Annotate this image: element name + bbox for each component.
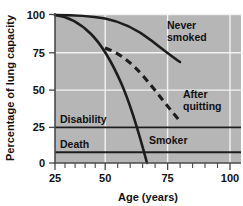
lung-capacity-chart: 100 75 50 25 0 25 50 75 100 Percentage o…: [0, 0, 243, 206]
annotation-after-quitting-line2: quitting: [183, 100, 221, 112]
x-tick-label-50: 50: [99, 172, 111, 184]
x-axis-title: Age (years): [118, 191, 178, 203]
annotation-never-smoked-line1: Never: [167, 19, 196, 31]
x-tick-label-25: 25: [49, 172, 61, 184]
y-tick-label-0: 0: [39, 157, 45, 169]
y-tick-label-100: 100: [27, 9, 45, 21]
annotation-never-smoked-line2: smoked: [167, 31, 207, 43]
x-tick-label-75: 75: [161, 172, 173, 184]
y-tick-label-50: 50: [33, 84, 45, 96]
y-axis-ticks: [49, 15, 55, 164]
y-axis-title: Percentage of lung capacity: [4, 14, 16, 161]
annotation-death: Death: [60, 138, 89, 150]
y-tick-label-25: 25: [33, 121, 45, 133]
annotation-after-quitting-line1: After: [183, 88, 208, 100]
annotation-smoker: Smoker: [149, 134, 188, 146]
y-tick-label-75: 75: [33, 47, 45, 59]
x-tick-label-100: 100: [221, 172, 239, 184]
annotation-disability: Disability: [60, 113, 107, 125]
